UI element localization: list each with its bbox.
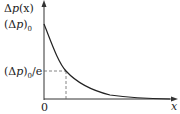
decay-diagram: Δp(x) (Δp)0 (Δp)0/e 0 x: [0, 0, 180, 114]
y-tick-initial: (Δp)0: [4, 18, 32, 33]
origin-label: 0: [41, 101, 48, 114]
y-tick-initial-over-e: (Δp)0/e: [4, 65, 42, 80]
y-axis-label: Δp(x): [4, 2, 34, 15]
x-axis-label: x: [171, 100, 178, 113]
decay-curve: [44, 24, 170, 99]
y-axis-arrow-icon: [42, 0, 47, 7]
